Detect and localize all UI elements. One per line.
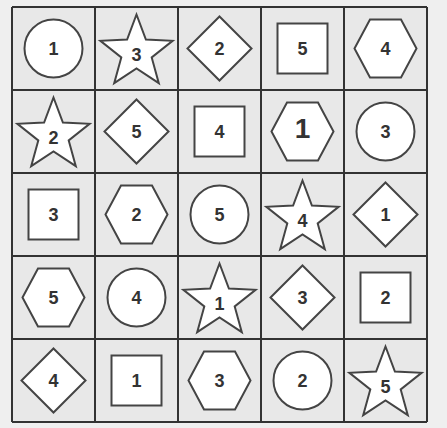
cell-number: 1: [214, 294, 224, 314]
cell-number: 1: [48, 39, 58, 59]
grid-cell[interactable]: 3: [29, 190, 79, 240]
cell-number: 2: [131, 205, 141, 225]
cell-number: 2: [297, 371, 307, 391]
cell-number: 5: [380, 377, 390, 397]
cell-number: 2: [214, 39, 224, 59]
cell-number: 1: [295, 113, 311, 144]
cell-number: 2: [48, 128, 58, 148]
cell-number: 1: [380, 205, 390, 225]
grid-cell[interactable]: 5: [191, 186, 249, 244]
grid-cell[interactable]: 4: [108, 269, 166, 327]
cell-number: 3: [214, 371, 224, 391]
cell-number: 5: [297, 39, 307, 59]
grid-cell[interactable]: 4: [195, 107, 245, 157]
cell-number: 4: [214, 122, 224, 142]
cell-number: 4: [297, 211, 307, 231]
cell-number: 5: [131, 122, 141, 142]
cell-number: 3: [48, 205, 58, 225]
grid-cell[interactable]: 2: [361, 273, 411, 323]
cell-number: 5: [214, 205, 224, 225]
grid-cell[interactable]: 1: [25, 20, 83, 78]
grid-cell[interactable]: 3: [357, 103, 415, 161]
cell-number: 2: [380, 288, 390, 308]
cell-number: 4: [48, 371, 58, 391]
grid-cell[interactable]: 5: [278, 24, 328, 74]
cell-number: 4: [380, 39, 390, 59]
cell-number: 1: [131, 371, 141, 391]
grid-cell[interactable]: 1: [112, 356, 162, 406]
cell-number: 3: [131, 45, 141, 65]
grid-cell[interactable]: 2: [274, 352, 332, 410]
cell-number: 4: [131, 288, 141, 308]
cell-number: 3: [380, 122, 390, 142]
cell-number: 3: [297, 288, 307, 308]
cell-number: 5: [48, 288, 58, 308]
shape-number-grid: 1325425413325415413241325: [0, 0, 447, 428]
